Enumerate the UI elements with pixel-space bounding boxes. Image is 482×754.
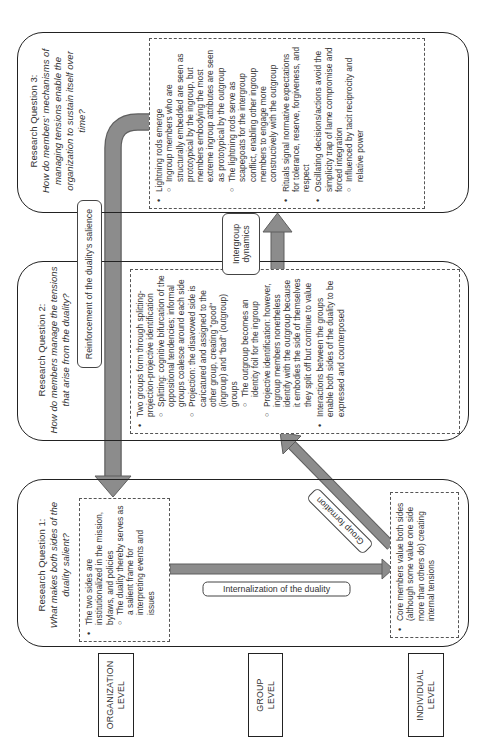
rq3-sub-bullet: Influenced by tacit reciprocity and rela… [344,44,365,192]
individual-level-label: INDIVIDUAL LEVEL [415,665,437,725]
rq3-findings-box: Lightning rods emerge Ingroup members wh… [149,38,425,209]
rq2-findings-box: Two groups form through splitting-projec… [130,269,460,434]
rq2-question: How do members manage the tensions that … [48,264,72,436]
rq3-bullet: Oscillating decisions/actions avoid the … [313,44,364,202]
rq2-title: Research Question 2: [36,264,48,436]
individual-level-box: INDIVIDUAL LEVEL [408,653,444,737]
duality-process-diagram: Research Question 3: How do members' mec… [0,0,482,754]
group-level-box: GROUP LEVEL [248,653,283,737]
rq1-individual-findings-box: Core members value both sides (although … [390,492,459,638]
reinforcement-label: Reinforcement of the duality's salience [77,200,102,368]
organization-level-box: ORGANIZATION LEVEL [98,653,134,737]
rq3-bullet: Lightning rods emerge Ingroup members wh… [154,44,279,202]
rq3-sub-bullet: Ingroup members who are structurally emb… [164,44,226,192]
group-level-label: GROUP LEVEL [255,675,277,715]
rq1-bullet: The two sides are institutionalized in t… [84,504,156,635]
rq3-bullet: Rituals signal normative expectations fo… [281,44,312,202]
rq2-sub-bullet: Projective identification: however, ingr… [262,275,313,417]
rq2-sub-bullet: Projection: the disavowed side is carica… [187,275,238,417]
rq1-bullet: Core members value both sides (although … [395,498,436,631]
rq2-sub-sub-bullet: The outgroup becomes an identity foil fo… [240,275,261,407]
rq2-sub-bullet: Splitting: cognitive bifurcation of the … [156,275,187,417]
rq3-heading: Research Question 3: How do members' mec… [28,41,88,201]
rq2-bullet: Interactions between the groups enable b… [315,275,346,427]
rq1-sub-bullet: The duality thereby serves as a salient … [115,504,156,625]
internalization-label: Internalization of the duality [203,582,351,597]
intergroup-dynamics-label: Intergroup dynamics [222,213,260,275]
rq3-sub-bullet: The lightning rods serve as scapegoats f… [227,44,278,192]
rq1-title: Research Question 1: [36,490,48,640]
rq1-question: What makes both sides of the duality sal… [48,490,72,640]
rq1-heading: Research Question 1: What makes both sid… [36,490,72,640]
rq3-title: Research Question 3: [28,41,40,201]
rq1-organization-findings-box: The two sides are institutionalized in t… [79,498,170,642]
rq3-question: How do members' mechanisms of managing t… [40,41,88,201]
rq2-bullet: Two groups form through splitting-projec… [135,275,313,427]
rq2-heading: Research Question 2: How do members mana… [36,264,72,436]
organization-level-label: ORGANIZATION LEVEL [105,660,127,730]
